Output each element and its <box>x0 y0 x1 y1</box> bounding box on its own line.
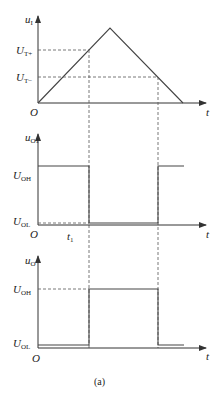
y-axis-label: uI <box>25 13 34 27</box>
level-label-ut-minus: UT− <box>16 71 32 85</box>
square-wave <box>38 166 184 223</box>
level-label-uol: UOL <box>13 215 30 229</box>
level-label-ut-plus: UT+ <box>16 44 32 58</box>
level-label-uol: UOL <box>13 337 30 351</box>
level-label-uoh: UOH <box>13 169 31 183</box>
panel-output: uO UOH UOL O t <box>13 254 210 364</box>
y-axis-label: uO1 <box>25 131 40 145</box>
figure-caption: (a) <box>94 376 105 388</box>
origin-label: O <box>32 352 40 364</box>
square-wave <box>38 289 184 345</box>
waveform-diagram: uI UT+ UT− O t uO1 UOH UOL O t1 t <box>0 0 224 394</box>
origin-label: O <box>30 228 38 240</box>
y-axis-label: uO <box>25 254 36 268</box>
level-label-uoh: UOH <box>13 283 31 297</box>
x-axis-label: t <box>206 228 210 240</box>
triangle-wave <box>38 28 183 103</box>
time-marker-t1: t1 <box>67 230 74 244</box>
x-axis-label: t <box>206 106 210 118</box>
origin-label: O <box>30 106 38 118</box>
x-axis-label: t <box>206 350 210 362</box>
panel-comparator: uO1 UOH UOL O t1 t <box>13 131 210 244</box>
panel-input: uI UT+ UT− O t <box>16 13 210 118</box>
